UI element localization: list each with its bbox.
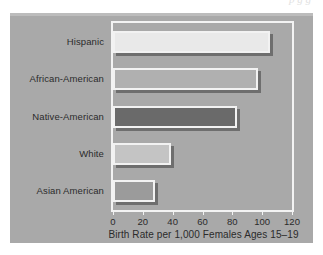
- x-axis-title-text: Birth Rate per 1,000 Females Ages 15–19: [24, 229, 298, 240]
- category-label-hispanic: Hispanic: [8, 36, 104, 47]
- x-tick-mark: [143, 210, 144, 215]
- x-tick-mark: [262, 210, 263, 215]
- chart-figure-panel: HispanicAfrican-AmericanNative-AmericanW…: [10, 13, 313, 243]
- category-label-african-american: African-American: [8, 73, 104, 84]
- page-bleed-text-strip: p g g: [0, 0, 323, 9]
- x-tick-label: 40: [158, 216, 188, 227]
- x-tick-label: 80: [217, 216, 247, 227]
- bar-native-american: [113, 106, 237, 128]
- panel-top-highlight-band: [10, 13, 313, 16]
- category-label-asian-american: Asian American: [8, 185, 104, 196]
- x-tick-label: 120: [277, 216, 307, 227]
- x-tick-mark: [292, 210, 293, 215]
- x-tick-mark: [113, 210, 114, 215]
- page-bleed-text: p g g: [289, 0, 311, 5]
- bar-white: [113, 143, 171, 165]
- x-tick-label: 0: [98, 216, 128, 227]
- x-tick-label: 20: [128, 216, 158, 227]
- x-axis-tick-labels: 020406080100120: [73, 216, 323, 229]
- x-tick-mark: [232, 210, 233, 215]
- x-axis-title: Birth Rate per 1,000 Females Ages 15–19: [10, 229, 313, 240]
- x-tick-mark: [203, 210, 204, 215]
- category-axis-labels: HispanicAfrican-AmericanNative-AmericanW…: [10, 23, 108, 210]
- bar-hispanic: [113, 31, 270, 53]
- category-label-native-american: Native-American: [8, 111, 104, 122]
- bar-asian-american: [113, 180, 155, 202]
- x-tick-label: 60: [188, 216, 218, 227]
- plot-area: [113, 23, 292, 210]
- x-tick-label: 100: [247, 216, 277, 227]
- bar-african-american: [113, 68, 258, 90]
- x-tick-mark: [173, 210, 174, 215]
- category-label-white: White: [8, 148, 104, 159]
